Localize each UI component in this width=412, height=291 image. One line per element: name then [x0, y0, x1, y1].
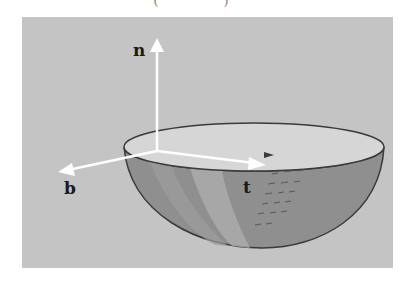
bowl-diagram	[0, 0, 412, 291]
n-label: n	[133, 40, 145, 60]
b-label: b	[64, 178, 76, 198]
t-label: t	[243, 177, 251, 197]
n-arrowhead	[150, 38, 164, 52]
b-arrowhead	[58, 163, 75, 176]
